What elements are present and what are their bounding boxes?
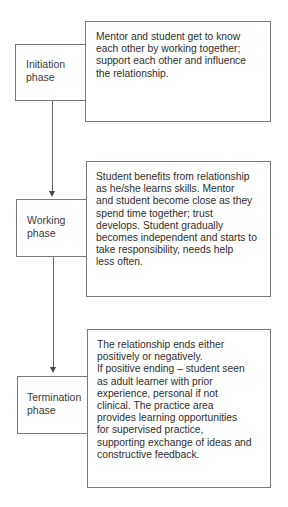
working-description-box: Student benefits from relationship as he…: [86, 161, 271, 297]
connector-line-2: [53, 257, 54, 368]
connector-line-1: [52, 101, 53, 192]
working-phase-label: Working phase: [27, 214, 65, 239]
initiation-phase-box: Initiation phase: [15, 44, 86, 101]
termination-phase-label: Termination phase: [27, 391, 81, 416]
initiation-description-box: Mentor and student get to know each othe…: [85, 21, 271, 122]
initiation-description: Mentor and student get to know each othe…: [96, 31, 268, 80]
arrow-down-icon: [50, 367, 56, 373]
working-description: Student benefits from relationship as he…: [96, 171, 270, 269]
initiation-phase-label: Initiation phase: [26, 58, 65, 83]
termination-description: The relationship ends either positively …: [97, 339, 271, 461]
termination-phase-box: Termination phase: [17, 376, 88, 434]
arrow-down-icon: [49, 191, 55, 197]
working-phase-box: Working phase: [16, 199, 87, 257]
termination-description-box: The relationship ends either positively …: [87, 329, 271, 488]
